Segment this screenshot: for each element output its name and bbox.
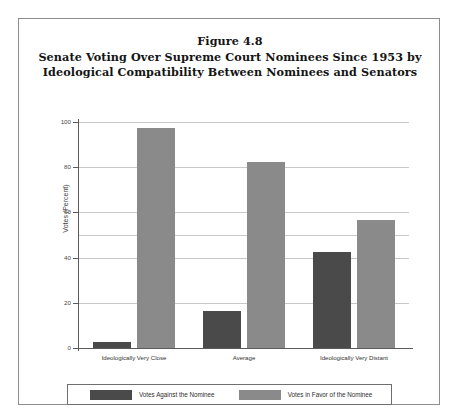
- gridline: [79, 212, 409, 213]
- x-axis-line: [76, 348, 413, 349]
- y-tick-label: 20: [41, 299, 71, 306]
- figure-title-line-1: Senate Voting Over Supreme Court Nominee…: [19, 50, 441, 66]
- y-tick-label: 40: [41, 254, 71, 261]
- legend-label-against: Votes Against the Nominee: [139, 391, 215, 398]
- x-tick-label: Average: [184, 354, 304, 361]
- bar-against: [93, 342, 131, 348]
- figure-title: Figure 4.8 Senate Voting Over Supreme Co…: [19, 34, 441, 81]
- bar-favor: [247, 162, 285, 348]
- bar-against: [203, 311, 241, 348]
- legend-swatch-favor-icon: [239, 390, 281, 400]
- figure-frame: Figure 4.8 Senate Voting Over Supreme Co…: [18, 18, 440, 405]
- bar-favor: [357, 220, 395, 348]
- y-tick-label: 0: [41, 344, 71, 351]
- x-tick-label: Ideologically Very Close: [74, 354, 194, 361]
- legend-entry-votes-in-favor: Votes in Favor of the Nominee: [239, 390, 373, 400]
- legend-swatch-against-icon: [90, 390, 132, 400]
- figure-number: Figure 4.8: [19, 34, 441, 50]
- y-tick-label: 60: [41, 208, 71, 215]
- bar-against: [313, 252, 351, 348]
- chart-legend: Votes Against the Nominee Votes in Favor…: [67, 384, 392, 405]
- gridline: [79, 167, 409, 168]
- plot-area: [79, 122, 409, 348]
- figure-title-line-2: Ideological Compatibility Between Nomine…: [19, 65, 441, 81]
- y-tick-label: 100: [41, 118, 71, 125]
- y-tick-label: 80: [41, 163, 71, 170]
- gridline: [79, 122, 409, 123]
- y-tick-mark: [73, 348, 79, 349]
- legend-entry-votes-against: Votes Against the Nominee: [90, 390, 215, 400]
- x-tick-label: Ideologically Very Distant: [294, 354, 414, 361]
- bar-favor: [137, 128, 175, 348]
- legend-label-favor: Votes in Favor of the Nominee: [288, 391, 373, 398]
